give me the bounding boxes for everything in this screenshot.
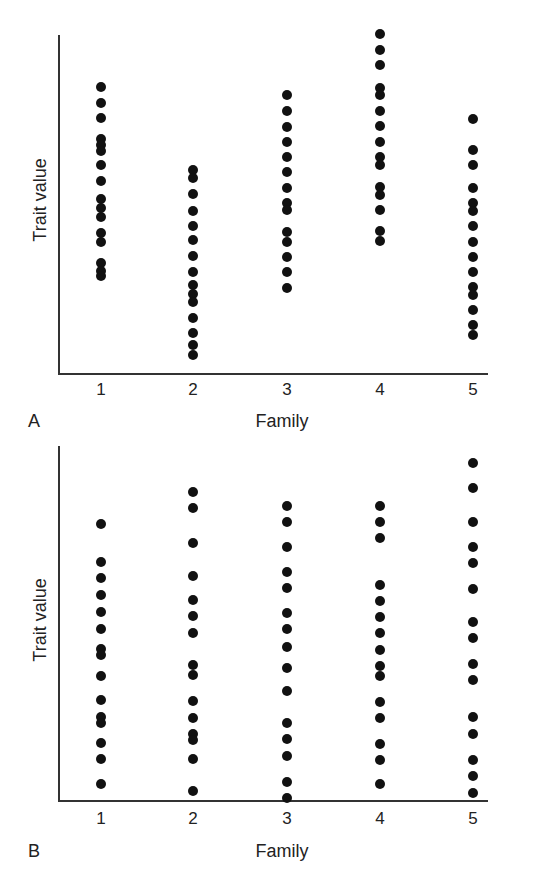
- data-point: [468, 483, 478, 493]
- data-point: [468, 458, 478, 468]
- data-point: [282, 227, 292, 237]
- data-point: [282, 517, 292, 527]
- data-point: [282, 237, 292, 247]
- data-point: [468, 633, 478, 643]
- data-point: [282, 90, 292, 100]
- data-point: [96, 573, 106, 583]
- data-point: [468, 659, 478, 669]
- data-point: [96, 738, 106, 748]
- data-point: [375, 137, 385, 147]
- data-point: [188, 350, 198, 360]
- data-point: [282, 152, 292, 162]
- data-point: [375, 60, 385, 70]
- data-point: [188, 297, 198, 307]
- data-point: [96, 176, 106, 186]
- data-point: [188, 754, 198, 764]
- data-point: [188, 221, 198, 231]
- data-point: [96, 557, 106, 567]
- data-point: [375, 29, 385, 39]
- data-point: [375, 226, 385, 236]
- data-point: [188, 503, 198, 513]
- data-point: [96, 98, 106, 108]
- data-point: [468, 729, 478, 739]
- data-point: [468, 320, 478, 330]
- data-point: [468, 712, 478, 722]
- data-point: [188, 735, 198, 745]
- panel-b: Trait value 1 2 3 4 5 Family B: [0, 440, 542, 878]
- data-point: [375, 45, 385, 55]
- data-point: [188, 670, 198, 680]
- data-point: [375, 533, 385, 543]
- data-point: [375, 580, 385, 590]
- data-point: [96, 519, 106, 529]
- data-point: [282, 686, 292, 696]
- x-tick-4: 4: [375, 809, 384, 829]
- data-point: [375, 713, 385, 723]
- data-point: [468, 183, 478, 193]
- scatter-plot-area: [0, 440, 542, 878]
- data-point: [468, 221, 478, 231]
- data-point: [375, 739, 385, 749]
- data-point: [468, 558, 478, 568]
- data-point: [468, 584, 478, 594]
- data-point: [188, 713, 198, 723]
- panel-a: Trait value 1 2 3 4 5 Family A: [0, 0, 542, 440]
- data-point: [468, 330, 478, 340]
- x-tick-5: 5: [468, 809, 477, 829]
- data-point: [282, 624, 292, 634]
- data-point: [282, 267, 292, 277]
- data-point: [375, 517, 385, 527]
- data-point: [188, 328, 198, 338]
- x-axis-title: Family: [256, 841, 309, 862]
- data-point: [282, 663, 292, 673]
- data-point: [96, 146, 106, 156]
- data-point: [375, 628, 385, 638]
- data-point: [188, 313, 198, 323]
- x-tick-2: 2: [188, 380, 197, 400]
- data-point: [468, 542, 478, 552]
- data-point: [96, 113, 106, 123]
- data-point: [375, 190, 385, 200]
- data-point: [375, 106, 385, 116]
- data-point: [468, 517, 478, 527]
- data-point: [282, 501, 292, 511]
- data-point: [282, 751, 292, 761]
- data-point: [282, 183, 292, 193]
- data-point: [96, 650, 106, 660]
- data-point: [96, 590, 106, 600]
- data-point: [282, 718, 292, 728]
- x-tick-5: 5: [468, 380, 477, 400]
- data-point: [468, 160, 478, 170]
- data-point: [468, 252, 478, 262]
- data-point: [188, 571, 198, 581]
- data-point: [96, 779, 106, 789]
- data-point: [188, 173, 198, 183]
- data-point: [375, 205, 385, 215]
- data-point: [375, 755, 385, 765]
- data-point: [282, 567, 292, 577]
- x-tick-3: 3: [282, 380, 291, 400]
- data-point: [375, 779, 385, 789]
- data-point: [468, 771, 478, 781]
- data-point: [96, 671, 106, 681]
- panel-letter: B: [28, 841, 40, 862]
- data-point: [282, 137, 292, 147]
- panel-letter: A: [28, 411, 40, 432]
- data-point: [188, 611, 198, 621]
- data-point: [282, 583, 292, 593]
- data-point: [188, 660, 198, 670]
- data-point: [468, 206, 478, 216]
- data-point: [468, 267, 478, 277]
- data-point: [375, 90, 385, 100]
- data-point: [375, 121, 385, 131]
- data-point: [188, 251, 198, 261]
- data-point: [188, 267, 198, 277]
- data-point: [375, 645, 385, 655]
- data-point: [375, 501, 385, 511]
- data-point: [468, 114, 478, 124]
- x-tick-4: 4: [375, 380, 384, 400]
- data-point: [96, 607, 106, 617]
- data-point: [188, 487, 198, 497]
- data-point: [188, 786, 198, 796]
- data-point: [96, 695, 106, 705]
